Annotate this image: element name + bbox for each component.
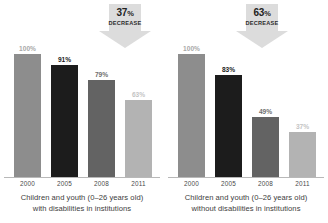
bar-slot-2011-right: 37% (289, 30, 316, 178)
chart-panel-without-disabilities: 63% DECREASE 100% 83% 49% 3 (164, 0, 328, 223)
bar-slot-2008-right: 49% (252, 30, 279, 178)
bar-slot-2011-left: 63% (125, 30, 152, 178)
x-axis-line-left (4, 177, 160, 178)
bar-rect-2011-left (125, 100, 152, 178)
bar-rect-2000-right (178, 54, 205, 178)
annotation-percent-value-right: 63 (253, 7, 264, 18)
year-label-2011-right: 2011 (289, 180, 316, 187)
year-label-2005-left: 2005 (51, 180, 78, 187)
bar-slot-2000-left: 100% (14, 30, 41, 178)
annotation-word-left: DECREASE (99, 19, 151, 27)
bar-slot-2005-right: 83% (215, 30, 242, 178)
plot-area-left: 100% 91% 79% 63% (0, 30, 164, 178)
year-label-2011-left: 2011 (125, 180, 152, 187)
chart-panel-with-disabilities: 37% DECREASE 100% 91% 79% 6 (0, 0, 164, 223)
year-labels-left: 2000 2005 2008 2011 (14, 180, 152, 187)
bar-slot-2008-left: 79% (88, 30, 115, 178)
bar-group-left: 100% 91% 79% 63% (14, 30, 152, 178)
bar-rect-2008-right (252, 117, 279, 178)
percent-sign-left: % (127, 9, 133, 18)
two-panel-bar-chart-figure: 37% DECREASE 100% 91% 79% 6 (0, 0, 328, 223)
annotation-text-right: 63% DECREASE (236, 7, 288, 27)
caption-line-1-right: Children and youth (0–26 years old) (168, 192, 324, 203)
year-label-2000-right: 2000 (178, 180, 205, 187)
bar-value-2000-right: 100% (183, 44, 200, 53)
x-axis-line-right (168, 177, 324, 178)
bar-rect-2005-left (51, 65, 78, 178)
bar-value-2011-left: 63% (132, 90, 145, 99)
plot-area-right: 100% 83% 49% 37% (164, 30, 328, 178)
bar-value-2005-left: 91% (58, 55, 71, 64)
panel-caption-right: Children and youth (0–26 years old) with… (168, 192, 324, 214)
year-label-2008-right: 2008 (252, 180, 279, 187)
annotation-percent-right: 63% (236, 7, 288, 19)
bar-rect-2008-left (88, 80, 115, 178)
annotation-percent-left: 37% (99, 7, 151, 19)
year-label-2000-left: 2000 (14, 180, 41, 187)
caption-line-2-right: without disabilities in institutions (168, 203, 324, 214)
caption-line-1-left: Children and youth (0–26 years old) (4, 192, 160, 203)
bar-rect-2005-right (215, 75, 242, 178)
year-label-2005-right: 2005 (215, 180, 242, 187)
bar-value-2005-right: 83% (222, 65, 235, 74)
bar-slot-2005-left: 91% (51, 30, 78, 178)
year-labels-right: 2000 2005 2008 2011 (178, 180, 316, 187)
caption-line-2-left: with disabilities in institutions (4, 203, 160, 214)
bar-value-2008-right: 49% (259, 107, 272, 116)
bar-value-2000-left: 100% (19, 44, 36, 53)
annotation-word-right: DECREASE (236, 19, 288, 27)
panel-caption-left: Children and youth (0–26 years old) with… (4, 192, 160, 214)
annotation-percent-value-left: 37 (116, 7, 127, 18)
year-label-2008-left: 2008 (88, 180, 115, 187)
percent-sign-right: % (264, 9, 270, 18)
bar-rect-2000-left (14, 54, 41, 178)
bar-slot-2000-right: 100% (178, 30, 205, 178)
bar-value-2008-left: 79% (95, 70, 108, 79)
annotation-text-left: 37% DECREASE (99, 7, 151, 27)
bar-value-2011-right: 37% (296, 122, 309, 131)
bar-group-right: 100% 83% 49% 37% (178, 30, 316, 178)
bar-rect-2011-right (289, 132, 316, 178)
